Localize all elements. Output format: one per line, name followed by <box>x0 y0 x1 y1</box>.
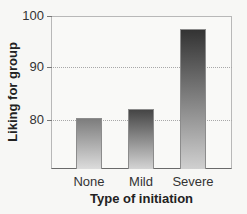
bar-mild <box>128 109 154 169</box>
bar-none <box>76 118 102 169</box>
ytick-90 <box>47 67 52 68</box>
ytick-100 <box>47 16 52 17</box>
x-axis-title: Type of initiation <box>51 191 232 206</box>
ytick-label-100: 100 <box>16 9 44 23</box>
bar-severe <box>180 29 206 169</box>
y-axis-title-text: Liking for group <box>5 42 20 142</box>
ytick-label-90: 90 <box>16 60 44 74</box>
xlabel-mild: Mild <box>111 174 171 189</box>
ytick-80 <box>47 120 52 121</box>
xlabel-severe: Severe <box>163 174 223 189</box>
xlabel-none: None <box>59 174 119 189</box>
ytick-label-80: 80 <box>16 113 44 127</box>
